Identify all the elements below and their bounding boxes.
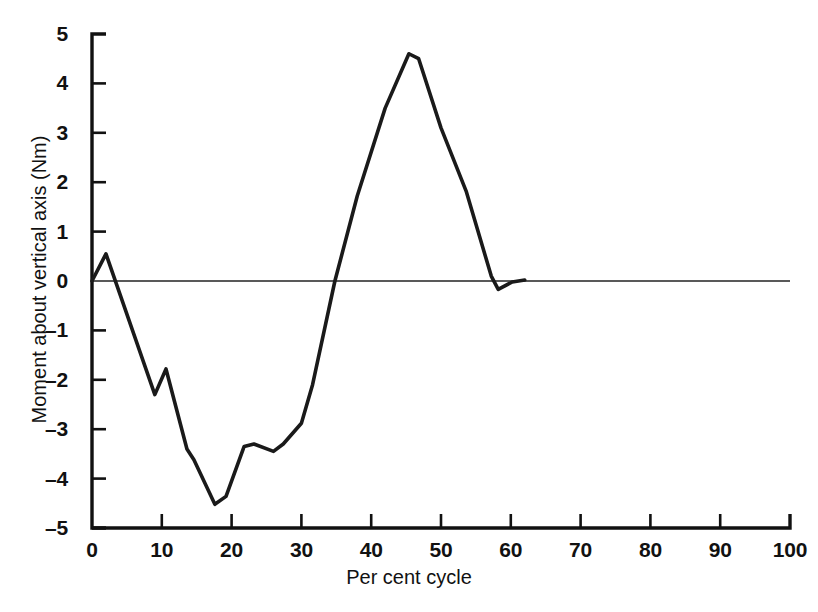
chart-figure: 5 4 3 2 1 0 –1 –2 –3 –4 –5 0 10 20 30 40… [0, 0, 818, 612]
x-tick-label-80: 80 [639, 538, 662, 562]
x-tick-label-10: 10 [150, 538, 173, 562]
x-tick-label-70: 70 [569, 538, 592, 562]
x-tick-label-100: 100 [773, 538, 807, 562]
x-tick-label-60: 60 [499, 538, 522, 562]
y-axis-label: Moment about vertical axis (Nm) [28, 60, 51, 500]
x-tick-label-90: 90 [709, 538, 732, 562]
data-series-line [92, 54, 525, 505]
x-tick-label-30: 30 [290, 538, 313, 562]
x-tick-label-20: 20 [220, 538, 243, 562]
x-axis-ticks [162, 514, 720, 528]
x-axis-label: Per cent cycle [0, 566, 818, 589]
x-tick-label-0: 0 [86, 538, 97, 562]
x-tick-label-50: 50 [430, 538, 453, 562]
x-tick-label-40: 40 [360, 538, 383, 562]
y-tick-label-neg5: –5 [8, 516, 68, 540]
chart-plot-area [0, 0, 818, 612]
y-tick-label-5: 5 [16, 22, 68, 46]
